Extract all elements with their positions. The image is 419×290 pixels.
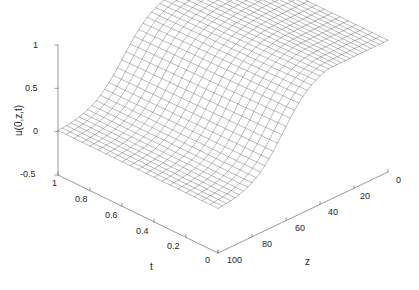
z-tick-80: 80 [262,240,272,249]
u-axis-title: u(0,z,t) [14,105,24,136]
z-tick-0: 0 [396,176,401,185]
surface-plot-figure: 1 0.5 0 -0.5 u(0,z,t) 1 0.8 0.6 0.4 0.2 … [0,0,419,290]
t-tick-0p2: 0.2 [167,242,180,251]
u-tick-0: 0 [33,127,38,136]
u-tick-1: 1 [33,41,38,50]
z-axis-title: z [305,257,310,267]
t-tick-0p6: 0.6 [105,211,118,220]
z-tick-20: 20 [360,192,370,201]
t-tick-0: 0 [205,256,210,265]
u-tick-0p5: 0.5 [25,84,38,93]
t-tick-1: 1 [52,179,57,188]
t-axis-title: t [150,262,153,272]
t-tick-0p4: 0.4 [136,227,149,236]
z-tick-40: 40 [328,208,338,217]
t-tick-0p8: 0.8 [75,195,88,204]
u-tick-neg0p5: -0.5 [20,170,36,179]
mesh-surface [0,0,419,290]
z-tick-100: 100 [227,256,242,265]
z-tick-60: 60 [295,224,305,233]
